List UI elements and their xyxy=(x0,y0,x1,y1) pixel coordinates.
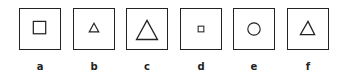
panel-label-a: a xyxy=(30,61,50,72)
triangle-medium-icon xyxy=(288,9,328,49)
panel-label-b: b xyxy=(84,61,104,72)
circle-medium-icon xyxy=(234,9,274,49)
panel-e xyxy=(233,8,275,50)
panel-c xyxy=(126,8,168,50)
panel-label-c: c xyxy=(137,61,157,72)
panel-d xyxy=(180,8,222,50)
panel-b xyxy=(73,8,115,50)
triangle-large-icon xyxy=(127,9,167,49)
square-medium-icon xyxy=(20,9,60,49)
panel-a xyxy=(19,8,61,50)
panel-f xyxy=(287,8,329,50)
panel-label-e: e xyxy=(244,61,264,72)
square-small-icon xyxy=(181,9,221,49)
panel-label-d: d xyxy=(191,61,211,72)
panel-label-f: f xyxy=(298,61,318,72)
triangle-small-icon xyxy=(74,9,114,49)
